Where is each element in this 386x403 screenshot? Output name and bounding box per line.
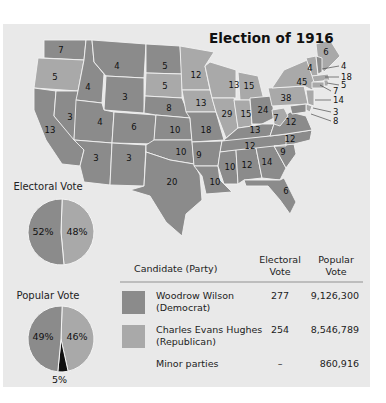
map-title: Election of 1916 bbox=[209, 30, 334, 46]
state-md bbox=[290, 104, 306, 114]
state-votes-al: 12 bbox=[242, 160, 253, 170]
state-votes-az: 3 bbox=[93, 153, 98, 163]
state-votes-wv: 7 bbox=[273, 113, 278, 123]
state-votes-tn: 12 bbox=[245, 141, 256, 151]
republican-swatch bbox=[122, 325, 145, 348]
popular-vote-value: 860,916 bbox=[300, 358, 359, 370]
state-votes-vt: 4 bbox=[307, 63, 312, 73]
pie-pct-label: 48% bbox=[66, 226, 87, 237]
electoral-pie-title: Electoral Vote bbox=[0, 181, 98, 192]
pie-pct-label: 52% bbox=[32, 226, 53, 237]
callout-line bbox=[311, 114, 331, 121]
state-votes-co: 6 bbox=[131, 122, 136, 132]
candidate-party: (Democrat) bbox=[156, 302, 210, 314]
state-votes-ga: 14 bbox=[262, 157, 273, 167]
callout-votes-nh: 4 bbox=[341, 61, 346, 71]
state-wa bbox=[44, 40, 86, 60]
state-votes-la: 10 bbox=[210, 177, 221, 187]
state-votes-oh: 24 bbox=[258, 105, 269, 115]
state-votes-nc: 12 bbox=[285, 134, 296, 144]
state-or bbox=[34, 58, 84, 91]
state-votes-wy: 3 bbox=[122, 92, 127, 102]
state-votes-or: 5 bbox=[52, 72, 57, 82]
state-votes-id: 4 bbox=[85, 82, 90, 92]
state-votes-mn: 12 bbox=[191, 70, 202, 80]
candidate-name: Minor parties bbox=[156, 358, 219, 370]
header-popular-line1: Popular bbox=[311, 254, 361, 266]
state-votes-tx: 20 bbox=[167, 177, 178, 187]
state-votes-ut: 4 bbox=[97, 117, 102, 127]
state-votes-ne: 8 bbox=[166, 103, 171, 113]
state-votes-nm: 3 bbox=[126, 153, 131, 163]
state-votes-ny: 45 bbox=[297, 77, 308, 87]
electoral-vote-pie: 52%48% bbox=[26, 197, 96, 267]
callout-line bbox=[313, 108, 331, 112]
state-votes-ca: 13 bbox=[45, 125, 56, 135]
callout-votes-nj: 14 bbox=[333, 95, 344, 105]
state-votes-ky: 13 bbox=[250, 125, 261, 135]
popular-pie-title: Popular Vote bbox=[0, 290, 98, 301]
candidate-name: Woodrow Wilson bbox=[156, 290, 234, 302]
state-votes-ia: 13 bbox=[196, 98, 207, 108]
electoral-vote-value: 277 bbox=[255, 290, 305, 302]
popular-vote-pie: 49%46% bbox=[26, 304, 96, 374]
state-votes-nd: 5 bbox=[162, 61, 167, 71]
state-votes-ms: 10 bbox=[225, 162, 236, 172]
state-votes-in: 15 bbox=[241, 109, 252, 119]
minor-parties-pct: 5% bbox=[52, 374, 67, 385]
candidate-name: Charles Evans Hughes bbox=[156, 324, 262, 336]
header-popular-line2: Vote bbox=[311, 266, 361, 278]
electoral-vote-value: 254 bbox=[255, 324, 305, 336]
state-nm bbox=[110, 143, 146, 186]
state-votes-nv: 3 bbox=[67, 112, 72, 122]
state-votes-pa: 38 bbox=[281, 93, 292, 103]
state-votes-mi: 15 bbox=[244, 81, 255, 91]
state-votes-fl: 6 bbox=[283, 186, 288, 196]
candidate-party: (Republican) bbox=[156, 336, 216, 348]
electoral-vote-value: – bbox=[255, 358, 305, 370]
state-votes-sd: 5 bbox=[162, 81, 167, 91]
popular-vote-value: 8,546,789 bbox=[300, 324, 359, 336]
header-candidate: Candidate (Party) bbox=[134, 263, 217, 275]
state-votes-va: 12 bbox=[286, 117, 297, 127]
state-votes-mt: 4 bbox=[114, 61, 119, 71]
state-fl bbox=[244, 178, 296, 214]
callout-votes-md: 8 bbox=[333, 116, 338, 126]
state-votes-me: 6 bbox=[323, 47, 328, 57]
state-ct bbox=[312, 82, 324, 88]
header-electoral-vote: Electoral Vote bbox=[255, 254, 305, 278]
popular-vote-value: 9,126,300 bbox=[300, 290, 359, 302]
state-votes-mo: 18 bbox=[201, 125, 212, 135]
pie-pct-label: 49% bbox=[32, 331, 53, 342]
state-votes-il: 29 bbox=[222, 109, 233, 119]
democrat-swatch bbox=[122, 291, 145, 314]
state-votes-sc: 9 bbox=[280, 147, 285, 157]
header-electoral-line2: Vote bbox=[255, 266, 305, 278]
header-popular-vote: Popular Vote bbox=[311, 254, 361, 278]
header-electoral-line1: Electoral bbox=[255, 254, 305, 266]
state-votes-wi: 13 bbox=[229, 80, 240, 90]
state-votes-ok: 10 bbox=[176, 147, 187, 157]
state-votes-wa: 7 bbox=[58, 45, 63, 55]
callout-votes-ri: 5 bbox=[341, 80, 346, 90]
state-votes-ks: 10 bbox=[170, 125, 181, 135]
table-divider bbox=[120, 281, 363, 283]
state-votes-ar: 9 bbox=[196, 150, 201, 160]
pie-pct-label: 46% bbox=[66, 331, 87, 342]
